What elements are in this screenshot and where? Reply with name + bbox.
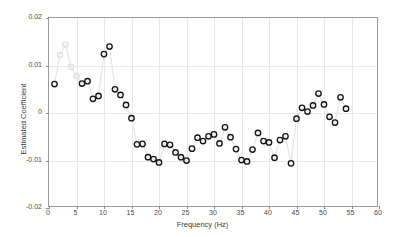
- x-axis-tick-label: 50: [319, 209, 327, 217]
- x-axis-tick-label: 40: [264, 209, 272, 217]
- x-axis-tick-label: 30: [209, 209, 217, 217]
- y-axis-tick-label: 0.02: [0, 13, 42, 21]
- x-axis-tick-label: 0: [46, 209, 50, 217]
- x-axis-tick-label: 60: [374, 209, 382, 217]
- data-series-layer: [49, 18, 379, 208]
- y-axis-tick-label: -0.02: [0, 203, 42, 211]
- x-axis-tick-label: 15: [127, 209, 135, 217]
- x-axis-tick-label: 45: [292, 209, 300, 217]
- figure-scatter-plot: 051015202530354045505560-0.02-0.0100.010…: [0, 0, 405, 237]
- x-axis-label: Frequency (Hz): [0, 220, 405, 229]
- x-axis-tick-label: 20: [154, 209, 162, 217]
- plot-area: [48, 17, 378, 207]
- x-axis-tick-label: 55: [347, 209, 355, 217]
- x-axis-tick-label: 35: [237, 209, 245, 217]
- x-axis-tick-label: 5: [74, 209, 78, 217]
- x-axis-tick-label: 10: [99, 209, 107, 217]
- y-axis-label: Estimated Coefficient: [19, 44, 28, 194]
- series-connector-line: [55, 45, 347, 164]
- x-axis-tick-label: 25: [182, 209, 190, 217]
